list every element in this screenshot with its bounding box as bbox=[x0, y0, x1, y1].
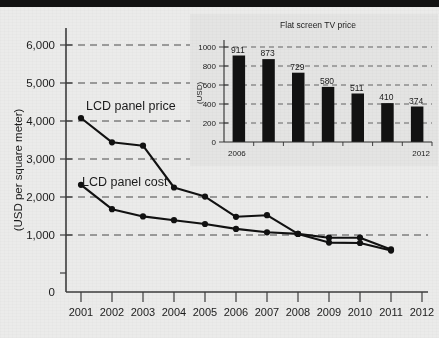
main-xtick-label-2012: 2012 bbox=[410, 306, 434, 318]
main-xtick-label-2001: 2001 bbox=[69, 306, 93, 318]
inset-bar bbox=[322, 87, 335, 142]
main-xtick-label-2007: 2007 bbox=[255, 306, 279, 318]
datapoint bbox=[326, 240, 332, 246]
main-ytick-label-2000: 2,000 bbox=[26, 191, 55, 203]
inset-bar bbox=[411, 107, 424, 143]
inset-bar-value-label: 410 bbox=[379, 92, 393, 102]
main-ytick-label-0: 0 bbox=[49, 286, 55, 298]
main-xtick-label-2002: 2002 bbox=[100, 306, 124, 318]
inset-bar-value-label: 511 bbox=[350, 83, 364, 93]
main-ytick-label-3000: 3,000 bbox=[26, 153, 55, 165]
main-ytick-label-6000: 6,000 bbox=[26, 39, 55, 51]
inset-bar bbox=[233, 56, 246, 143]
inset-bar bbox=[352, 94, 365, 143]
datapoint bbox=[357, 240, 363, 246]
main-ytick-label-5000: 5,000 bbox=[26, 77, 55, 89]
datapoint bbox=[264, 212, 270, 218]
inset-y-axis-title: (USD) bbox=[195, 82, 204, 105]
series-label-lcd-panel-price: LCD panel price bbox=[86, 99, 176, 113]
datapoint bbox=[264, 229, 270, 235]
inset-chart-group: Flat screen TV price 9118737295805114103… bbox=[190, 14, 438, 166]
inset-ytick-label-0: 0 bbox=[212, 138, 217, 147]
inset-bar-value-label: 374 bbox=[409, 96, 423, 106]
main-ytick-label-4000: 4,000 bbox=[26, 115, 55, 127]
datapoint bbox=[233, 214, 239, 220]
lcd-panel-price-cost-chart: 6,000 5,000 4,000 3,000 2,000 1,000 0 (U… bbox=[0, 0, 439, 338]
main-xtick-label-2008: 2008 bbox=[286, 306, 310, 318]
datapoint bbox=[357, 235, 363, 241]
inset-bar-value-label: 729 bbox=[290, 62, 304, 72]
main-xtick-label-2005: 2005 bbox=[193, 306, 217, 318]
datapoint bbox=[109, 139, 115, 145]
series-label-lcd-panel-cost: LCD panel cost bbox=[82, 175, 168, 189]
datapoint bbox=[233, 226, 239, 232]
inset-ytick-label-400: 400 bbox=[203, 100, 217, 109]
main-xtick-label-2006: 2006 bbox=[224, 306, 248, 318]
inset-ytick-label-600: 600 bbox=[203, 81, 217, 90]
main-y-axis-title: (USD per square meter) bbox=[12, 108, 24, 231]
inset-ytick-label-800: 800 bbox=[203, 62, 217, 71]
inset-xtick-label-2006: 2006 bbox=[228, 149, 246, 158]
main-x-ticks bbox=[81, 292, 422, 302]
inset-bar-value-label: 873 bbox=[261, 48, 275, 58]
main-xtick-label-2004: 2004 bbox=[162, 306, 186, 318]
main-xtick-label-2003: 2003 bbox=[131, 306, 155, 318]
inset-bar-value-label: 911 bbox=[231, 45, 245, 55]
inset-xtick-label-2012: 2012 bbox=[412, 149, 430, 158]
datapoint bbox=[388, 248, 394, 254]
inset-chart-title: Flat screen TV price bbox=[280, 20, 356, 30]
inset-bar bbox=[262, 59, 275, 142]
datapoint bbox=[202, 194, 208, 200]
inset-ytick-label-200: 200 bbox=[203, 119, 217, 128]
main-xtick-label-2011: 2011 bbox=[379, 306, 403, 318]
datapoint bbox=[78, 115, 84, 121]
main-xtick-label-2010: 2010 bbox=[348, 306, 372, 318]
datapoint bbox=[140, 213, 146, 219]
datapoint bbox=[295, 231, 301, 237]
datapoint bbox=[202, 221, 208, 227]
datapoint bbox=[109, 206, 115, 212]
main-xtick-label-2009: 2009 bbox=[317, 306, 341, 318]
chart-page: 6,000 5,000 4,000 3,000 2,000 1,000 0 (U… bbox=[0, 0, 439, 338]
inset-panel-background bbox=[190, 14, 438, 166]
datapoint bbox=[171, 217, 177, 223]
inset-bar bbox=[381, 103, 394, 142]
main-ytick-label-1000: 1,000 bbox=[26, 229, 55, 241]
inset-ytick-label-1000: 1000 bbox=[198, 43, 216, 52]
datapoint bbox=[140, 143, 146, 149]
inset-bar bbox=[292, 73, 305, 142]
datapoint bbox=[171, 184, 177, 190]
inset-bar-value-label: 580 bbox=[320, 76, 334, 86]
